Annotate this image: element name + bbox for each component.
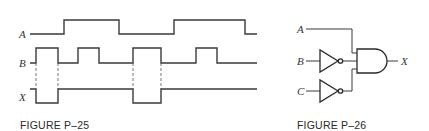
inverter-b-icon: [320, 50, 338, 72]
inverter-bubble-icon: [338, 89, 342, 93]
inverter-bubble-icon: [338, 59, 342, 63]
figure-caption-p25: FIGURE P–25: [20, 119, 89, 131]
waveform-a: [30, 20, 257, 34]
waveform-x: [30, 89, 257, 103]
output-label-x: X: [400, 55, 409, 67]
wire-a: [306, 29, 357, 53]
figures-canvas: A B X FIGURE P–25 A B C X FIGURE P–26: [0, 0, 429, 131]
signal-label-x: X: [18, 91, 27, 103]
timing-diagram: A B X FIGURE P–25: [18, 20, 257, 131]
signal-label-b: B: [19, 57, 26, 69]
logic-circuit: A B C X FIGURE P–26: [296, 23, 409, 131]
and-gate-icon: [357, 49, 387, 73]
input-label-b: B: [297, 55, 304, 67]
figure-caption-p26: FIGURE P–26: [297, 119, 366, 131]
waveform-b: [30, 48, 257, 63]
input-label-a: A: [296, 23, 304, 35]
signal-label-a: A: [18, 28, 26, 40]
input-label-c: C: [297, 85, 305, 97]
inverter-c-icon: [320, 80, 338, 102]
wire-c-out: [343, 69, 357, 91]
